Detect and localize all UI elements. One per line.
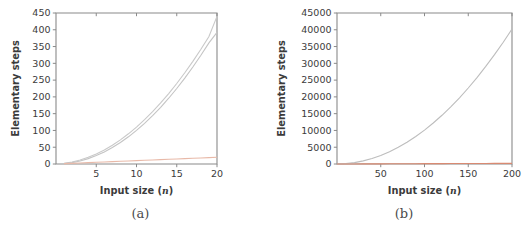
curve-linear-baseline — [337, 163, 512, 164]
y-tick-label: 5000 — [307, 142, 331, 153]
y-tick-label: 150 — [32, 108, 50, 119]
y-tick-label: 20000 — [301, 91, 331, 102]
x-axis-title: Input size (n) — [388, 185, 461, 196]
y-tick-label: 450 — [32, 7, 50, 18]
y-tick-label: 300 — [32, 58, 50, 69]
chart-b: 0500010000150002000025000300003500040000… — [265, 0, 531, 200]
y-tick-label: 350 — [32, 41, 50, 52]
x-tick-label: 50 — [375, 168, 387, 179]
y-tick-label: 100 — [32, 125, 50, 136]
y-tick-label: 40000 — [301, 24, 331, 35]
y-axis-title: Elementary steps — [276, 40, 287, 137]
plot-frame — [56, 13, 217, 164]
panel-b-caption: (b) — [265, 206, 531, 221]
y-tick-label: 0 — [325, 158, 331, 169]
x-tick-label: 150 — [459, 168, 477, 179]
y-tick-label: 35000 — [301, 41, 331, 52]
y-tick-label: 250 — [32, 74, 50, 85]
x-tick-label: 20 — [211, 168, 223, 179]
x-tick-label: 15 — [171, 168, 183, 179]
curve-upper-quadratic — [64, 16, 217, 163]
y-tick-label: 400 — [32, 24, 50, 35]
y-tick-label: 45000 — [301, 7, 331, 18]
y-tick-label: 0 — [44, 158, 50, 169]
x-axis-title-main: Input size ( — [100, 185, 162, 196]
x-axis-title-main: Input size ( — [388, 185, 450, 196]
x-tick-label: 100 — [415, 168, 433, 179]
panel-a-caption: (a) — [0, 206, 265, 221]
x-tick-label: 200 — [503, 168, 521, 179]
curve-lower-quadratic — [64, 32, 217, 163]
figure-container: 0501001502002503003504004505101520Elemen… — [0, 0, 531, 227]
panel-b: 0500010000150002000025000300003500040000… — [265, 0, 531, 227]
y-tick-label: 10000 — [301, 125, 331, 136]
x-tick-label: 10 — [130, 168, 142, 179]
y-axis-title: Elementary steps — [10, 40, 21, 137]
x-tick-label: 5 — [93, 168, 99, 179]
x-axis-title-close: ) — [457, 185, 461, 196]
x-axis-title-close: ) — [169, 185, 173, 196]
panel-a: 0501001502002503003504004505101520Elemen… — [0, 0, 265, 227]
curve-quadratic — [337, 29, 512, 164]
y-tick-label: 50 — [38, 142, 50, 153]
plot-frame — [337, 13, 512, 164]
chart-a: 0501001502002503003504004505101520Elemen… — [0, 0, 265, 200]
y-tick-label: 200 — [32, 91, 50, 102]
y-tick-label: 25000 — [301, 74, 331, 85]
x-axis-title: Input size (n) — [100, 185, 173, 196]
y-tick-label: 30000 — [301, 58, 331, 69]
y-tick-label: 15000 — [301, 108, 331, 119]
